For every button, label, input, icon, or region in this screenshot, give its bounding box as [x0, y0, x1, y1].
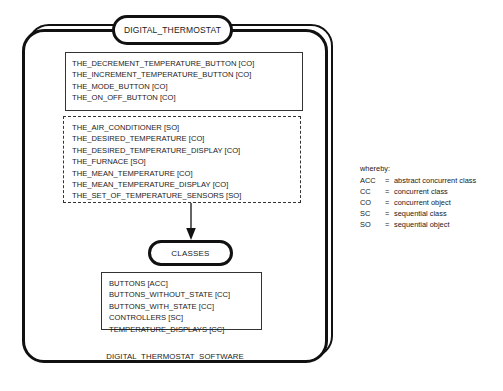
- objects-dashed-box: THE_AIR_CONDITIONER [SO] THE_DESIRED_TEM…: [63, 116, 301, 203]
- class-entry: BUTTONS_WITHOUT_STATE [CC]: [109, 289, 261, 300]
- classes-tab-label: CLASSES: [171, 249, 209, 258]
- legend-heading: whereby:: [360, 163, 500, 174]
- legend-row: CC = concurrent class: [360, 186, 500, 197]
- legend-row: SC = sequential class: [360, 208, 500, 219]
- object-entry: THE_AIR_CONDITIONER [SO]: [72, 122, 300, 133]
- thermostat-package-diagram: DIGITAL_THERMOSTAT THE_DECREMENT_TEMPERA…: [0, 0, 503, 391]
- legend-equals: =: [385, 197, 394, 208]
- legend: whereby: ACC = abstract concurrent class…: [360, 163, 500, 230]
- object-entry: THE_ON_OFF_BUTTON [CO]: [72, 92, 302, 103]
- object-entry: THE_INCREMENT_TEMPERATURE_BUTTON [CO]: [72, 69, 302, 80]
- legend-equals: =: [385, 186, 394, 197]
- legend-abbr: ACC: [360, 175, 385, 186]
- legend-abbr: CC: [360, 186, 385, 197]
- object-entry: THE_DESIRED_TEMPERATURE_DISPLAY [CO]: [72, 145, 300, 156]
- object-entry: THE_MODE_BUTTON [CO]: [72, 81, 302, 92]
- legend-description: abstract concurrent class: [394, 175, 500, 186]
- legend-description: concurrent object: [394, 197, 500, 208]
- legend-row: CO = concurrent object: [360, 197, 500, 208]
- classes-tab: CLASSES: [148, 240, 233, 266]
- legend-abbr: CO: [360, 197, 385, 208]
- dependency-arrow-down: [185, 203, 197, 241]
- object-entry: THE_SET_OF_TEMPERATURE_SENSORS [SO]: [72, 190, 300, 201]
- package-title-tab: DIGITAL_THERMOSTAT: [112, 15, 233, 45]
- legend-row: SO = sequential object: [360, 219, 500, 230]
- class-entry: CONTROLLERS [SC]: [109, 312, 261, 323]
- class-entry: BUTTONS [ACC]: [109, 278, 261, 289]
- object-entry: THE_DESIRED_TEMPERATURE [CO]: [72, 133, 300, 144]
- class-entry: TEMPERATURE_DISPLAYS [CC]: [109, 324, 261, 335]
- legend-equals: =: [385, 175, 394, 186]
- arrow-down-icon: [185, 203, 197, 241]
- concurrent-objects-solid-box: THE_DECREMENT_TEMPERATURE_BUTTON [CO] TH…: [65, 52, 303, 111]
- package-title-label: DIGITAL_THERMOSTAT: [124, 25, 221, 35]
- package-bottom-caption: DIGITAL_THERMOSTAT_SOFTWARE: [22, 352, 328, 361]
- class-entry: BUTTONS_WITH_STATE [CC]: [109, 301, 261, 312]
- classes-list-box: BUTTONS [ACC] BUTTONS_WITHOUT_STATE [CC]…: [101, 272, 262, 330]
- legend-equals: =: [385, 208, 394, 219]
- object-entry: THE_MEAN_TEMPERATURE_DISPLAY [CO]: [72, 179, 300, 190]
- legend-row: ACC = abstract concurrent class: [360, 175, 500, 186]
- legend-description: sequential class: [394, 208, 500, 219]
- object-entry: THE_MEAN_TEMPERATURE [CO]: [72, 168, 300, 179]
- object-entry: THE_DECREMENT_TEMPERATURE_BUTTON [CO]: [72, 58, 302, 69]
- legend-abbr: SC: [360, 208, 385, 219]
- legend-equals: =: [385, 219, 394, 230]
- legend-description: concurrent class: [394, 186, 500, 197]
- object-entry: THE_FURNACE [SO]: [72, 156, 300, 167]
- legend-description: sequential object: [394, 219, 500, 230]
- legend-abbr: SO: [360, 219, 385, 230]
